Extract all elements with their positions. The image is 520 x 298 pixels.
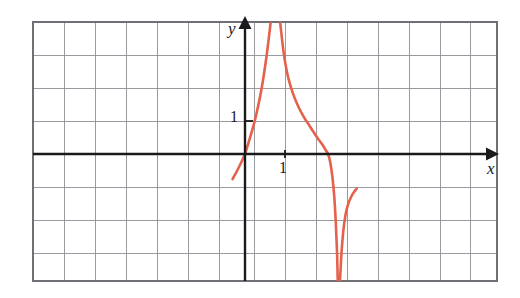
y-axis-label: y (228, 20, 236, 37)
plot-canvas (0, 0, 520, 298)
x-axis-tick-label-1: 1 (279, 160, 287, 176)
y-axis-tick-label-1: 1 (230, 109, 238, 125)
graph-figure: y x 1 1 (0, 0, 520, 298)
x-axis-label: x (487, 160, 495, 177)
